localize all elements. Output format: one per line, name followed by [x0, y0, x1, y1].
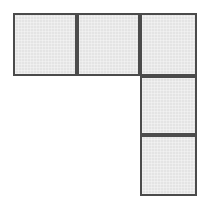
polyomino-figure	[0, 0, 205, 202]
polyomino-cell-top-right	[140, 13, 197, 76]
polyomino-cell-bottom-right	[140, 135, 197, 196]
polyomino-cell-top-left	[13, 13, 77, 76]
polyomino-cell-middle-right	[140, 76, 197, 135]
polyomino-cell-top-middle	[77, 13, 140, 76]
